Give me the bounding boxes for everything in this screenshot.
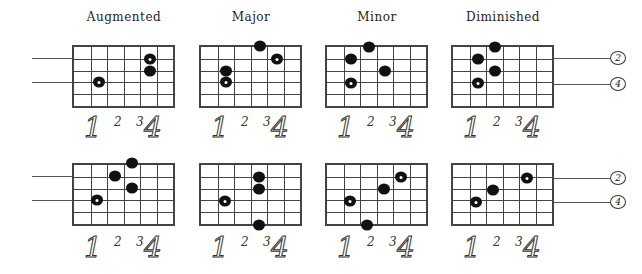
finger-4: 4 xyxy=(271,111,289,144)
finger-3: 3 xyxy=(389,235,397,249)
note-dot-icon xyxy=(363,42,375,53)
string-line xyxy=(327,189,426,190)
finger-numbers: 1 2 3 4 xyxy=(211,113,321,143)
finger-3: 3 xyxy=(515,115,523,129)
finger-2: 2 xyxy=(114,115,122,129)
string-line xyxy=(453,71,552,72)
finger-numbers: 1 2 3 4 xyxy=(337,233,447,263)
note-dot-icon xyxy=(220,66,232,77)
string-lead-line xyxy=(554,84,610,85)
finger-numbers: 1 2 3 4 xyxy=(211,233,321,263)
note-dot-icon xyxy=(379,66,391,77)
fret-line xyxy=(410,165,411,224)
fret-line xyxy=(157,165,158,224)
string-line xyxy=(201,177,300,178)
fret-line xyxy=(157,47,158,106)
string-line xyxy=(201,189,300,190)
fret-line xyxy=(470,47,471,106)
string-line xyxy=(74,71,173,72)
string-line xyxy=(327,59,426,60)
root-note-dot-icon xyxy=(91,195,103,206)
string-lead-line xyxy=(32,200,72,201)
string-line xyxy=(453,82,552,83)
string-lead-line xyxy=(32,176,72,177)
fret-line xyxy=(124,165,125,224)
fretboard-grid-bottom-augmented xyxy=(72,163,175,226)
fret-line xyxy=(470,165,471,224)
fret-line xyxy=(107,47,108,106)
string-lead-line xyxy=(554,58,610,59)
string-line xyxy=(74,177,173,178)
string-marker-4: 4 xyxy=(610,77,626,91)
finger-3: 3 xyxy=(389,115,397,129)
note-dot-icon xyxy=(345,54,357,65)
finger-1: 1 xyxy=(84,111,102,144)
note-dot-icon xyxy=(144,66,156,77)
note-dot-icon xyxy=(126,158,138,169)
fretboard-grid-top-major xyxy=(199,45,302,108)
fretboard-grid-bottom-minor xyxy=(325,163,428,226)
fret-line xyxy=(486,165,487,224)
finger-2: 2 xyxy=(114,235,122,249)
fret-line xyxy=(536,165,537,224)
string-line xyxy=(327,94,426,95)
fret-line xyxy=(251,165,252,224)
string-marker-4: 4 xyxy=(610,195,626,209)
fret-line xyxy=(344,165,345,224)
finger-2: 2 xyxy=(493,235,501,249)
title-major: Major xyxy=(196,10,306,24)
fret-line xyxy=(234,165,235,224)
fretboard-grid-bottom-diminished xyxy=(451,163,554,226)
string-lead-line xyxy=(554,178,610,179)
finger-2: 2 xyxy=(493,115,501,129)
root-note-dot-icon xyxy=(395,172,407,183)
finger-1: 1 xyxy=(463,111,481,144)
finger-3: 3 xyxy=(136,115,144,129)
string-line xyxy=(74,82,173,83)
title-diminished: Diminished xyxy=(448,10,558,24)
string-line xyxy=(74,94,173,95)
fret-line xyxy=(218,165,219,224)
root-note-dot-icon xyxy=(470,197,482,208)
fret-line xyxy=(140,165,141,224)
string-line xyxy=(453,177,552,178)
finger-4: 4 xyxy=(271,231,289,264)
string-line xyxy=(74,200,173,201)
note-dot-icon xyxy=(126,183,138,194)
string-line xyxy=(74,59,173,60)
title-minor: Minor xyxy=(322,10,432,24)
finger-3: 3 xyxy=(263,115,271,129)
string-line xyxy=(327,177,426,178)
note-dot-icon xyxy=(378,184,390,195)
root-note-dot-icon xyxy=(345,78,357,89)
fret-line xyxy=(486,47,487,106)
string-line xyxy=(74,189,173,190)
string-line xyxy=(201,200,300,201)
string-line xyxy=(201,71,300,72)
finger-1: 1 xyxy=(337,231,355,264)
finger-4: 4 xyxy=(144,111,162,144)
finger-2: 2 xyxy=(367,115,375,129)
string-line xyxy=(453,94,552,95)
fret-line xyxy=(284,165,285,224)
string-line xyxy=(327,82,426,83)
note-dot-icon xyxy=(109,171,121,182)
finger-numbers: 1 2 3 4 xyxy=(337,113,447,143)
fret-line xyxy=(218,47,219,106)
string-marker-2: 2 xyxy=(610,51,626,65)
title-augmented: Augmented xyxy=(69,10,179,24)
finger-2: 2 xyxy=(241,115,249,129)
fret-line xyxy=(377,165,378,224)
string-line xyxy=(201,59,300,60)
fret-line xyxy=(360,47,361,106)
root-note-dot-icon xyxy=(220,77,232,88)
fretboard-grid-top-augmented xyxy=(72,45,175,108)
fret-line xyxy=(410,47,411,106)
finger-4: 4 xyxy=(397,231,415,264)
string-lead-line xyxy=(32,58,72,59)
fret-line xyxy=(267,165,268,224)
string-line xyxy=(201,82,300,83)
finger-numbers: 1 2 3 4 xyxy=(463,113,573,143)
fretboard-grid-top-diminished xyxy=(451,45,554,108)
fret-line xyxy=(124,47,125,106)
